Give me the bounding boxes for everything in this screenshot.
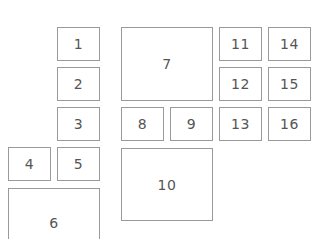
box-5: 5 xyxy=(57,147,100,181)
box-1: 1 xyxy=(57,27,100,61)
box-label: 16 xyxy=(280,116,299,132)
box-6: 6 xyxy=(8,188,100,239)
box-label: 14 xyxy=(280,36,299,52)
box-8: 8 xyxy=(121,107,164,141)
box-label: 6 xyxy=(49,215,58,231)
box-label: 12 xyxy=(231,76,250,92)
box-label: 15 xyxy=(280,76,299,92)
box-16: 16 xyxy=(268,107,311,141)
box-9: 9 xyxy=(170,107,213,141)
box-3: 3 xyxy=(57,107,100,141)
box-label: 13 xyxy=(231,116,250,132)
box-2: 2 xyxy=(57,67,100,101)
box-12: 12 xyxy=(219,67,262,101)
box-15: 15 xyxy=(268,67,311,101)
box-14: 14 xyxy=(268,27,311,61)
box-label: 11 xyxy=(231,36,250,52)
box-label: 3 xyxy=(74,116,83,132)
box-label: 10 xyxy=(158,177,177,193)
box-label: 5 xyxy=(74,156,83,172)
box-7: 7 xyxy=(121,27,213,101)
box-label: 1 xyxy=(74,36,83,52)
box-label: 9 xyxy=(187,116,196,132)
box-10: 10 xyxy=(121,148,213,221)
box-11: 11 xyxy=(219,27,262,61)
box-label: 7 xyxy=(162,56,171,72)
box-4: 4 xyxy=(8,147,51,181)
box-label: 2 xyxy=(74,76,83,92)
box-label: 4 xyxy=(25,156,34,172)
box-label: 8 xyxy=(138,116,147,132)
box-13: 13 xyxy=(219,107,262,141)
